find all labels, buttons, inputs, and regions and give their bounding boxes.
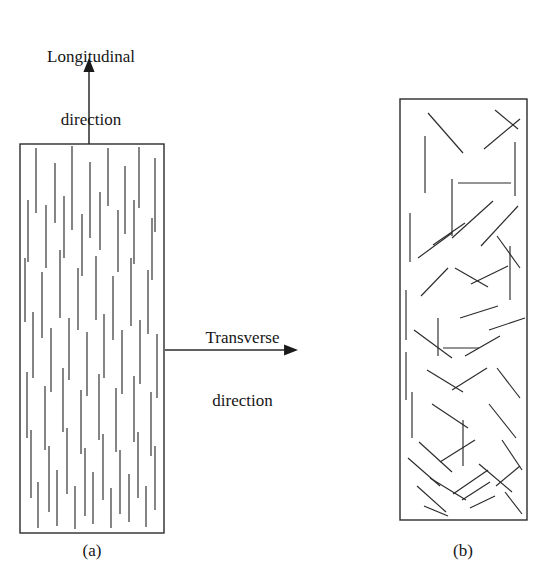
panel-b-caption: (b) [413, 540, 513, 561]
fiber-segment [489, 404, 516, 438]
transverse-label-line2: direction [175, 390, 310, 411]
fiber-orientation-figure: Longitudinal direction Transverse direct… [0, 0, 552, 585]
panel-a-fiber-set [25, 146, 157, 529]
panel-b-fiber-set [406, 110, 525, 516]
fiber-segment [479, 464, 512, 492]
panel-a-caption: (a) [42, 540, 142, 561]
fiber-segment [502, 440, 522, 470]
fiber-segment [505, 492, 522, 514]
fiber-segment [414, 330, 452, 358]
fiber-segment [428, 113, 463, 153]
fiber-segment [452, 201, 493, 238]
fiber-segment [453, 470, 488, 494]
fiber-segment [433, 223, 465, 245]
fiber-segment [465, 336, 500, 356]
transverse-label-line1: Transverse [175, 327, 310, 348]
fiber-segment [427, 370, 463, 392]
fiber-segment [471, 266, 508, 284]
fiber-segment [495, 110, 518, 129]
panel-a-border [20, 144, 164, 533]
fiber-segment [418, 233, 452, 258]
fiber-segment [417, 486, 446, 512]
transverse-direction-label: Transverse direction [175, 285, 310, 453]
longitudinal-label-line2: direction [6, 109, 176, 130]
fiber-segment [452, 368, 487, 390]
fiber-segment [496, 466, 520, 486]
longitudinal-label-line1: Longitudinal [6, 46, 176, 67]
fiber-segment [440, 440, 475, 462]
fiber-segment [497, 368, 520, 398]
fiber-segment [460, 306, 498, 318]
panel-a-aligned-fibers [20, 144, 164, 533]
fiber-segment [489, 318, 525, 330]
panel-b-random-fibers [400, 99, 527, 520]
fiber-segment [421, 268, 448, 296]
longitudinal-direction-label: Longitudinal direction [6, 4, 176, 172]
fiber-segment [497, 236, 520, 268]
fiber-segment [470, 496, 495, 508]
